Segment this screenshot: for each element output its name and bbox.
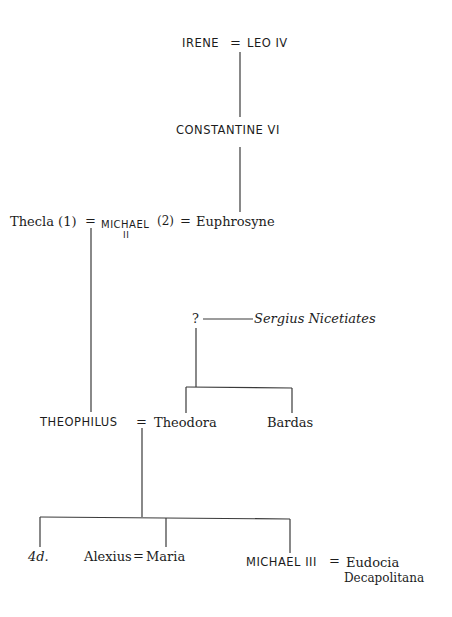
person-alexius: Alexius [84, 549, 132, 564]
tree-connectors [0, 0, 452, 617]
person-constantine-vi: CONSTANTINE VI [176, 123, 280, 138]
person-eudocia-epithet: Decapolitana [344, 571, 424, 586]
wife-index-2: (2) [157, 214, 174, 229]
marriage-sign: = [180, 213, 191, 228]
person-theodora: Theodora [154, 415, 217, 430]
person-michael-ii-numeral: II [123, 228, 129, 243]
person-euphrosyne: Euphrosyne [196, 214, 275, 229]
line-sibling-bar-theodora-bardas [186, 387, 292, 388]
person-maria: Maria [146, 549, 185, 564]
marriage-sign: = [329, 553, 340, 568]
person-thecla: Thecla (1) [10, 214, 76, 229]
person-theophilus: THEOPHILUS [40, 415, 118, 430]
person-irene: IRENE [182, 36, 219, 51]
person-unknown: ? [192, 311, 199, 326]
marriage-sign: = [136, 414, 147, 429]
person-sergius-nicetiates: Sergius Nicetiates [254, 311, 376, 326]
marriage-sign: = [133, 548, 144, 563]
person-leo-iv: LEO IV [247, 36, 288, 51]
person-eudocia: Eudocia [346, 555, 399, 570]
daughters-4d: 4d. [28, 549, 49, 564]
person-bardas: Bardas [267, 415, 313, 430]
marriage-sign: = [230, 35, 241, 50]
marriage-sign: = [85, 213, 96, 228]
line-children-bar [40, 517, 290, 519]
person-michael-iii: MICHAEL III [246, 555, 317, 570]
